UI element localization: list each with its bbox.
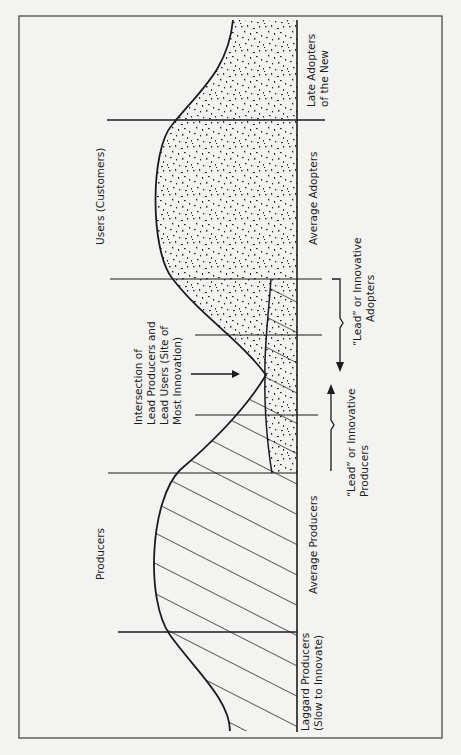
label-intersection-1: Intersection of xyxy=(132,349,144,425)
label-producers: Producers xyxy=(94,528,106,580)
label-lead-adopters-1: “Lead” or Innovative xyxy=(351,238,363,346)
lead-adopters-brace xyxy=(332,279,343,366)
label-laggard-1: Laggard Producers xyxy=(299,633,311,731)
label-lead-adopters-2: Adopters xyxy=(364,275,376,322)
label-late-adopters-2: of the New xyxy=(318,50,330,107)
lead-producers-brace xyxy=(330,390,334,470)
label-intersection-3: Lead Users (Site of xyxy=(158,326,170,425)
innovation-diagram: Users (Customers) Producers Late Adopter… xyxy=(0,0,461,755)
arrow-head-icon xyxy=(232,370,240,378)
label-lead-producers-1: “Lead” or Innovative xyxy=(345,389,357,497)
label-laggard-2: (Slow to Innovate) xyxy=(312,635,324,731)
label-lead-producers-2: Producers xyxy=(358,445,370,497)
down-arrow-icon xyxy=(336,362,344,372)
up-arrow-icon xyxy=(327,384,335,394)
producers-hatch-inner xyxy=(265,279,297,473)
label-users: Users (Customers) xyxy=(94,148,106,245)
label-intersection-4: Most Innovation) xyxy=(171,337,183,425)
label-late-adopters-1: Late Adopters xyxy=(305,34,317,107)
label-average-adopters: Average Adopters xyxy=(307,151,319,245)
label-intersection-2: Lead Producers and xyxy=(145,321,157,425)
label-average-producers: Average Producers xyxy=(307,496,319,594)
